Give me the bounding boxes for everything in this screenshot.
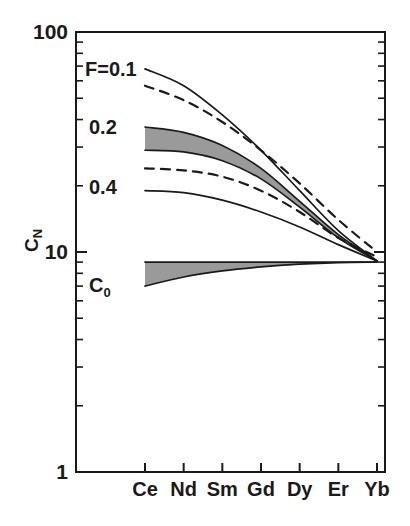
x-axis-tick-label: Nd: [170, 478, 197, 500]
data-curve: [145, 191, 377, 261]
y-axis-tick-label: 10: [45, 240, 68, 263]
x-axis-tick-label: Yb: [364, 478, 390, 500]
x-axis-tick-label: Gd: [247, 478, 275, 500]
data-curve: [145, 150, 377, 261]
curve-annotation-C0: C0: [89, 274, 111, 300]
x-axis-tick-label: Ce: [132, 478, 158, 500]
curve-annotation-F01: F=0.1: [85, 58, 137, 80]
y-axis-title: CN: [21, 229, 45, 252]
x-axis-tick-label: Sm: [207, 478, 238, 500]
x-axis-tick-label: Dy: [287, 478, 313, 500]
x-axis-tick-label: Er: [328, 478, 349, 500]
y-axis-tick-label: 100: [33, 20, 68, 43]
shaded-band: [145, 262, 377, 286]
chart-canvas: 110100CeNdSmGdDyErYbCNF=0.10.20.4C0: [0, 0, 410, 526]
plot-frame: [76, 32, 385, 472]
axes-layer: [76, 32, 385, 472]
curve-annotation-F04: 0.4: [89, 176, 118, 198]
ree-melting-chart: 110100CeNdSmGdDyErYbCNF=0.10.20.4C0: [0, 0, 410, 526]
curve-annotation-F02: 0.2: [89, 116, 117, 138]
y-axis-tick-label: 1: [56, 460, 68, 483]
